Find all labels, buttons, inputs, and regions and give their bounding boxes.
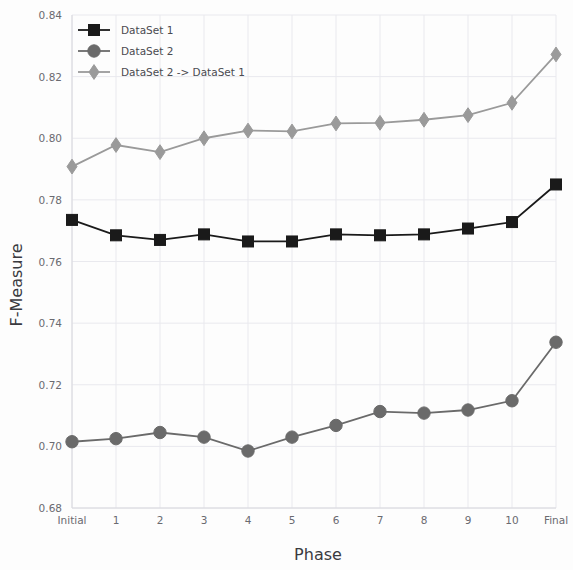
marker-square (287, 236, 298, 247)
marker-circle (286, 431, 298, 443)
x-tick-label: 1 (113, 514, 120, 526)
marker-square (507, 217, 518, 228)
y-tick-label: 0.82 (39, 71, 62, 83)
y-tick-label: 0.70 (39, 440, 62, 452)
x-tick-label: 6 (333, 514, 340, 526)
x-tick-label: 8 (421, 514, 428, 526)
marker-diamond (331, 116, 341, 131)
marker-square (89, 25, 100, 36)
marker-diamond (375, 115, 385, 130)
marker-circle (88, 45, 100, 57)
marker-circle (198, 431, 210, 443)
marker-square (551, 179, 562, 190)
x-tick-label: 10 (505, 514, 518, 526)
chart-container: 0.680.700.720.740.760.780.800.820.84 Ini… (0, 0, 573, 570)
marker-square (375, 230, 386, 241)
marker-circle (330, 419, 342, 431)
x-tick-label: 4 (245, 514, 252, 526)
legend: DataSet 1DataSet 2DataSet 2 -> DataSet 1 (78, 24, 245, 79)
marker-diamond (287, 124, 297, 139)
marker-square (111, 230, 122, 241)
line-chart: 0.680.700.720.740.760.780.800.820.84 Ini… (0, 0, 573, 570)
marker-circle (110, 432, 122, 444)
x-tick-label: 5 (289, 514, 296, 526)
marker-circle (154, 426, 166, 438)
marker-square (155, 234, 166, 245)
marker-square (419, 229, 430, 240)
y-axis-title: F-Measure (7, 244, 26, 327)
marker-diamond (243, 123, 253, 138)
series-circle (66, 336, 562, 457)
marker-circle (462, 404, 474, 416)
y-tick-label: 0.72 (39, 379, 62, 391)
marker-square (331, 229, 342, 240)
legend-label: DataSet 2 -> DataSet 1 (121, 66, 245, 78)
x-tick-label: Final (544, 514, 568, 526)
x-tick-label: 3 (201, 514, 208, 526)
marker-circle (66, 436, 78, 448)
marker-circle (374, 405, 386, 417)
marker-square (463, 223, 474, 234)
marker-circle (550, 336, 562, 348)
y-tick-label: 0.76 (39, 256, 63, 268)
y-tick-label: 0.84 (39, 9, 63, 21)
marker-diamond (419, 112, 429, 127)
legend-item[interactable]: DataSet 2 -> DataSet 1 (78, 65, 245, 80)
marker-circle (506, 395, 518, 407)
marker-square (243, 236, 254, 247)
series-line (72, 342, 556, 451)
marker-diamond (463, 108, 473, 123)
marker-diamond (199, 131, 209, 146)
legend-label: DataSet 2 (121, 45, 173, 57)
marker-diamond (111, 138, 121, 153)
y-tick-label: 0.80 (39, 132, 62, 144)
x-tick-label: 2 (157, 514, 164, 526)
y-axis-tick-labels: 0.680.700.720.740.760.780.800.820.84 (39, 9, 63, 514)
y-tick-label: 0.78 (39, 194, 62, 206)
legend-item[interactable]: DataSet 1 (78, 24, 173, 36)
x-tick-label: 9 (465, 514, 472, 526)
x-axis-title: Phase (294, 545, 342, 564)
series-square (67, 179, 562, 247)
series-layer (66, 47, 562, 457)
marker-circle (418, 407, 430, 419)
marker-square (67, 214, 78, 225)
y-tick-label: 0.68 (39, 502, 62, 514)
y-tick-label: 0.74 (39, 317, 63, 329)
x-tick-label: 7 (377, 514, 384, 526)
x-axis-tick-labels: Initial12345678910Final (57, 514, 568, 526)
marker-circle (242, 445, 254, 457)
series-line (72, 184, 556, 241)
legend-label: DataSet 1 (121, 24, 173, 36)
marker-diamond (89, 65, 99, 80)
marker-square (199, 229, 210, 240)
x-tick-label: Initial (57, 514, 86, 526)
marker-diamond (67, 159, 77, 174)
legend-item[interactable]: DataSet 2 (78, 45, 173, 57)
marker-diamond (155, 145, 165, 160)
